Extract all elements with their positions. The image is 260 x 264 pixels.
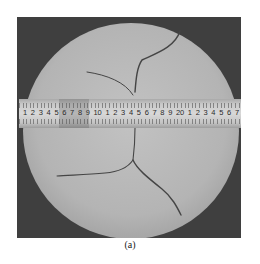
ruler-number: 20 (176, 108, 184, 117)
ruler-number: 2 (113, 108, 117, 117)
ruler-number: 6 (227, 108, 231, 117)
ruler-number: 7 (70, 108, 74, 117)
ruler-number: 3 (121, 108, 125, 117)
ruler-numbers: 1 2 3 4 5 6 7 8 9 10 1 2 3 4 5 6 7 8 9 2… (23, 108, 239, 117)
ruler-number: 2 (31, 108, 35, 117)
figure-caption: (a) (0, 239, 260, 250)
ruler-ticks-bottom (19, 119, 241, 124)
ruler-number: 1 (105, 108, 109, 117)
ruler-number: 5 (137, 108, 141, 117)
specimen-disc (23, 23, 239, 238)
ruler-number: 8 (78, 108, 82, 117)
ruler-number: 9 (86, 108, 90, 117)
ruler-number: 5 (54, 108, 58, 117)
ruler-number: 1 (23, 108, 27, 117)
ruler-number: 4 (129, 108, 133, 117)
ruler-number: 6 (62, 108, 66, 117)
ruler-number: 1 (188, 108, 192, 117)
ruler-number: 3 (204, 108, 208, 117)
ruler-number: 10 (94, 108, 102, 117)
ruler-number: 7 (152, 108, 156, 117)
ruler-number: 7 (235, 108, 239, 117)
specimen-photo: 1 2 3 4 5 6 7 8 9 10 1 2 3 4 5 6 7 8 9 2… (17, 17, 241, 238)
ruler-number: 2 (196, 108, 200, 117)
ruler-number: 9 (168, 108, 172, 117)
ruler-number: 8 (160, 108, 164, 117)
ruler: 1 2 3 4 5 6 7 8 9 10 1 2 3 4 5 6 7 8 9 2… (19, 99, 241, 128)
ruler-number: 4 (211, 108, 215, 117)
ruler-number: 3 (39, 108, 43, 117)
ruler-number: 6 (145, 108, 149, 117)
ruler-number: 5 (219, 108, 223, 117)
ruler-number: 4 (47, 108, 51, 117)
